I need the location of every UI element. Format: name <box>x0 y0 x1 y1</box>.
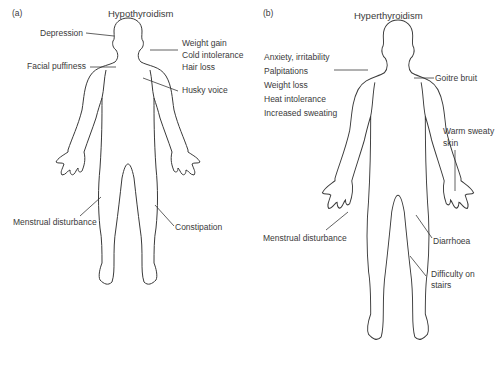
label-weight-gain: Weight gain <box>182 38 227 49</box>
label-menstrual-a: Menstrual disturbance <box>13 217 97 228</box>
label-warm-sweaty-skin-2: skin <box>443 138 458 149</box>
body-outline-a <box>56 18 200 284</box>
label-anxiety: Anxiety, irritability <box>264 52 330 63</box>
label-menstrual-b: Menstrual disturbance <box>263 233 347 244</box>
label-goitre-bruit: Goitre bruit <box>435 73 477 84</box>
label-diarrhoea: Diarrhoea <box>433 236 470 247</box>
panel-a-tag: (a) <box>12 8 22 19</box>
label-heat-intolerance: Heat intolerance <box>264 94 326 105</box>
label-warm-sweaty-skin-1: Warm sweaty <box>443 126 494 137</box>
label-facial-puffiness: Facial puffiness <box>27 61 86 72</box>
panel-b-tag: (b) <box>263 8 273 19</box>
panel-b-title: Hyperthyroidism <box>354 10 423 21</box>
label-difficulty-stairs-2: stairs <box>431 280 451 291</box>
label-constipation: Constipation <box>175 222 222 233</box>
diagram-canvas <box>0 0 502 376</box>
label-husky-voice: Husky voice <box>182 85 228 96</box>
label-palpitations: Palpitations <box>264 66 308 77</box>
label-difficulty-stairs-1: Difficulty on <box>431 269 475 280</box>
label-cold-intolerance: Cold intolerance <box>182 50 243 61</box>
label-weight-loss: Weight loss <box>264 80 308 91</box>
leader-lines-a <box>80 33 178 226</box>
panel-a-title: Hypothyroidism <box>108 8 173 19</box>
label-hair-loss: Hair loss <box>182 62 215 73</box>
body-outline-b <box>322 20 473 339</box>
label-increased-sweating: Increased sweating <box>264 108 337 119</box>
label-depression: Depression <box>40 28 83 39</box>
